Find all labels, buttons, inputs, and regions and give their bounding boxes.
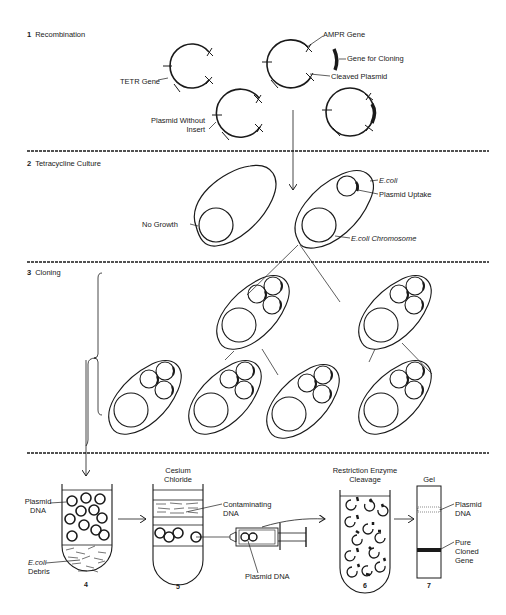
heading-cesium-chloride: Cesium Chloride [158, 466, 198, 484]
label-ecoli-chromosome: E.coli Chromosome [351, 234, 416, 243]
gene-insert-icon [334, 49, 337, 70]
label-gene-for-cloning: Gene for Cloning [347, 54, 404, 63]
label-plasmid-dna-tube4: Plasmid DNA [24, 497, 52, 515]
clone-cell-icon [217, 275, 289, 349]
clone-cell-icon [267, 364, 339, 438]
recombinant-plasmid-icon [322, 88, 375, 136]
syringe-icon [196, 523, 306, 550]
cut-plasmids [345, 497, 388, 577]
step-number-4: 4 [84, 581, 88, 588]
cloning-diagram [0, 0, 506, 615]
tet-plasmid-icon [163, 44, 213, 92]
label-pure-cloned-gene: Pure Cloned Gene [455, 538, 479, 565]
label-plasmid-uptake: Plasmid Uptake [379, 190, 432, 199]
label-gel-plasmid-dna: Plasmid DNA [455, 500, 482, 518]
gel-lane-icon [417, 486, 441, 578]
section-2-title: 2Tetracycline Culture [27, 159, 101, 168]
heading-restriction-cleavage: Restriction Enzyme Cleavage [330, 466, 400, 484]
label-tet-gene: TETR Gene [120, 77, 160, 86]
plasmid-without-insert-icon [212, 89, 263, 140]
step-number-6: 6 [363, 582, 367, 589]
contaminating-dna-hatching [156, 503, 198, 513]
amp-plasmid-icon [262, 40, 314, 88]
bracket-icon [94, 273, 102, 415]
label-plasmid-without-insert: Plasmid Without Insert [151, 116, 205, 134]
label-amp-gene: AMPR Gene [323, 30, 365, 39]
label-no-growth: No Growth [142, 220, 178, 229]
lysate-tube-icon [62, 484, 112, 572]
section-1-title: 1Recombination [27, 30, 85, 39]
label-ecoli: E.coli [379, 176, 397, 185]
no-growth-cell-icon [194, 165, 276, 246]
label-contaminating-dna: Contaminating DNA [223, 500, 271, 518]
section-3-title: 3Cloning [27, 268, 61, 277]
label-ecoli-debris: E.coli Debris [28, 558, 50, 576]
label-cleaved-plasmid: Cleaved Plasmid [331, 72, 387, 81]
clone-cell-icon [189, 360, 261, 434]
step-number-5: 5 [176, 583, 180, 590]
step-number-7: 7 [427, 582, 431, 589]
clone-cell-icon [109, 360, 181, 434]
label-syringe-plasmid-dna: Plasmid DNA [245, 572, 290, 581]
cesium-tube-icon [153, 484, 203, 585]
debris-hatching [66, 546, 106, 572]
clone-cell-icon [359, 360, 431, 434]
clone-cell-icon [359, 275, 431, 349]
heading-gel: Gel [417, 475, 441, 484]
restriction-tube-icon [340, 490, 390, 593]
